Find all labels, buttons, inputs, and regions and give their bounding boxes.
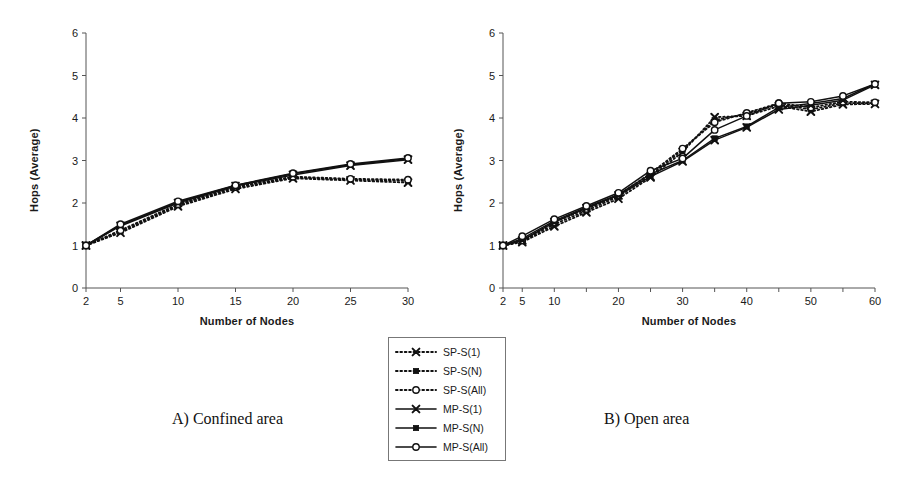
- series-line: [86, 159, 408, 246]
- series-5-pt-2-circle-marker: [551, 216, 557, 222]
- legend-item-mp-s-n[interactable]: MP-S(N): [394, 418, 501, 437]
- x-tick-label: 30: [676, 295, 688, 307]
- series-line: [86, 160, 408, 246]
- y-tick-label: 0: [489, 282, 495, 294]
- chart-a-y-axis-label: Hops (Average): [28, 128, 40, 212]
- series-line: [86, 178, 408, 246]
- legend-label: MP-S(1): [438, 403, 482, 415]
- legend-label: MP-S(N): [438, 422, 484, 434]
- series-4-pt-7-square-marker: [712, 136, 717, 141]
- x-tick-label: 2: [500, 295, 506, 307]
- series-sp-sn: [83, 175, 410, 248]
- series-5-pt-0-circle-marker: [500, 242, 506, 248]
- series-2-pt-12-circle-marker: [872, 99, 878, 105]
- legend-item-mp-s-all[interactable]: MP-S(All): [394, 437, 501, 456]
- y-tick-label: 0: [72, 282, 78, 294]
- legend-label: SP-S(N): [438, 365, 482, 377]
- figure-root: 0123456251015202530 Hops (Average) Numbe…: [0, 0, 908, 501]
- x-tick-label: 50: [805, 295, 817, 307]
- series-line: [86, 178, 408, 245]
- y-tick-label: 5: [72, 70, 78, 82]
- y-tick-label: 3: [72, 155, 78, 167]
- series-sp-sall: [83, 173, 411, 248]
- x-tick-label: 20: [287, 295, 299, 307]
- x-tick-label: 20: [612, 295, 624, 307]
- legend-swatch-svg: [394, 440, 438, 454]
- legend-swatch-circle-dotted: [394, 383, 438, 397]
- series-5-pt-12-circle-marker: [872, 81, 878, 87]
- legend-2-circle-marker: [413, 386, 419, 392]
- chart-b-x-axis-label: Number of Nodes: [503, 315, 875, 327]
- legend-label: MP-S(All): [438, 441, 488, 453]
- x-tick-label: 40: [741, 295, 753, 307]
- series-5-pt-4-circle-marker: [290, 170, 296, 176]
- legend-swatch-x-solid: [394, 402, 438, 416]
- series-line: [503, 84, 875, 246]
- y-tick-label: 2: [72, 197, 78, 209]
- series-legend: SP-S(1) SP-S(N) SP-S(All) MP-S(1) MP-S(N…: [388, 337, 506, 461]
- series-5-pt-3-circle-marker: [583, 203, 589, 209]
- series-5-pt-5-circle-marker: [347, 161, 353, 167]
- legend-5-circle-marker: [413, 443, 419, 449]
- legend-swatch-svg: [394, 383, 438, 397]
- series-line: [86, 158, 408, 246]
- series-2-pt-6-circle-marker: [405, 176, 411, 182]
- chart-a-canvas: 0123456251015202530: [0, 0, 440, 340]
- axes: 012345625102030405060: [489, 27, 881, 307]
- series-5-pt-9-circle-marker: [776, 100, 782, 106]
- caption-panel-a: A) Confined area: [172, 410, 283, 428]
- series-5-pt-6-circle-marker: [679, 155, 685, 161]
- y-tick-label: 1: [489, 240, 495, 252]
- x-tick-label: 15: [229, 295, 241, 307]
- chart-panel-confined-area: 0123456251015202530: [0, 0, 440, 340]
- series-5-pt-5-circle-marker: [647, 168, 653, 174]
- x-tick-label: 2: [83, 295, 89, 307]
- y-tick-label: 4: [489, 112, 495, 124]
- series-5-pt-1-circle-marker: [117, 221, 123, 227]
- x-tick-label: 10: [172, 295, 184, 307]
- series-line: [503, 104, 875, 246]
- x-tick-label: 60: [869, 295, 881, 307]
- legend-swatch-square-solid: [394, 421, 438, 435]
- series-5-pt-2-circle-marker: [175, 198, 181, 204]
- y-tick-label: 2: [489, 197, 495, 209]
- series-2-pt-6-circle-marker: [679, 145, 685, 151]
- series-5-pt-4-circle-marker: [615, 190, 621, 196]
- chart-panel-open-area: 012345625102030405060: [440, 0, 908, 340]
- x-tick-label: 5: [117, 295, 123, 307]
- legend-item-mp-s-1[interactable]: MP-S(1): [394, 399, 501, 418]
- series-5-pt-7-circle-marker: [711, 127, 717, 133]
- x-tick-label: 10: [548, 295, 560, 307]
- series-mp-sn: [83, 156, 410, 248]
- legend-swatch-circle-solid: [394, 440, 438, 454]
- legend-swatch-svg: [394, 364, 438, 378]
- series-mp-s1: [83, 156, 412, 249]
- series-5-pt-3-circle-marker: [232, 182, 238, 188]
- series-5-pt-11-circle-marker: [840, 93, 846, 99]
- axes: 0123456251015202530: [72, 27, 414, 307]
- legend-swatch-svg: [394, 345, 438, 359]
- series-5-pt-8-circle-marker: [744, 113, 750, 119]
- x-tick-label: 5: [519, 295, 525, 307]
- series-5-pt-6-circle-marker: [405, 155, 411, 161]
- legend-item-sp-s-1[interactable]: SP-S(1): [394, 342, 501, 361]
- series-2-pt-5-circle-marker: [347, 176, 353, 182]
- legend-label: SP-S(All): [438, 384, 486, 396]
- series-4-pt-8-square-marker: [744, 124, 749, 129]
- chart-b-y-axis-label: Hops (Average): [452, 128, 464, 212]
- y-tick-label: 4: [72, 112, 78, 124]
- legend-4-square-marker: [413, 425, 418, 430]
- chart-a-x-axis-label: Number of Nodes: [86, 315, 408, 327]
- series-2-pt-7-circle-marker: [711, 119, 717, 125]
- legend-swatch-svg: [394, 421, 438, 435]
- chart-b-canvas: 012345625102030405060: [440, 0, 908, 340]
- series-line: [503, 84, 875, 246]
- x-tick-label: 25: [344, 295, 356, 307]
- legend-item-sp-s-n[interactable]: SP-S(N): [394, 361, 501, 380]
- legend-item-sp-s-all[interactable]: SP-S(All): [394, 380, 501, 399]
- legend-swatch-svg: [394, 402, 438, 416]
- legend-label: SP-S(1): [438, 346, 480, 358]
- y-tick-label: 1: [72, 240, 78, 252]
- y-tick-label: 5: [489, 70, 495, 82]
- x-tick-label: 30: [402, 295, 414, 307]
